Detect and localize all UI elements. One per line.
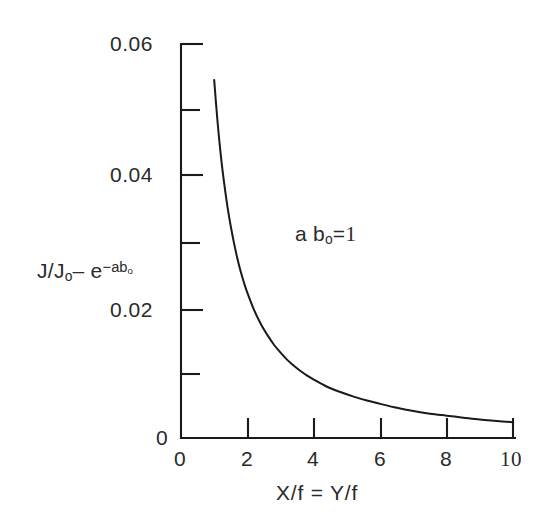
y-tick-label-0.04: 0.04	[110, 163, 153, 187]
annotation-ab0-value: 1	[345, 222, 356, 246]
y-axis-title: J/Jo– e−abo	[37, 259, 133, 284]
x-tick-label-6: 6	[374, 447, 386, 471]
y-axis-title-exponent: −abo	[103, 259, 133, 275]
x-tick-label-4: 4	[307, 447, 319, 471]
data-curve	[214, 80, 513, 422]
annotation-ab0-equals: =	[333, 222, 346, 245]
annotation-ab0-sub: o	[325, 231, 333, 247]
figure-root: 0.06 0.04 0.02 0 0 2 4 6 8 10 J/Jo– e−ab…	[0, 0, 541, 522]
annotation-ab0: a bo=1	[295, 222, 356, 247]
x-axis-title: X/f = Y/f	[276, 481, 358, 505]
y-axis-title-lead: J/J	[37, 259, 65, 282]
x-tick-label-2: 2	[241, 447, 253, 471]
y-axis-title-exp-sub: o	[127, 265, 132, 276]
y-tick-label-0.06: 0.06	[110, 32, 153, 56]
x-tick-label-10: 10	[500, 447, 522, 472]
x-tick-label-0: 0	[174, 447, 186, 471]
annotation-ab0-lead: a b	[295, 222, 325, 245]
y-axis-title-minus: – e	[72, 259, 102, 282]
y-tick-label-0.02: 0.02	[110, 298, 153, 322]
y-tick-label-0: 0	[156, 426, 168, 450]
y-axis-title-exp-minus: −	[103, 259, 112, 275]
x-tick-label-8: 8	[440, 447, 452, 471]
y-axis-title-exp-base: ab	[111, 259, 127, 275]
